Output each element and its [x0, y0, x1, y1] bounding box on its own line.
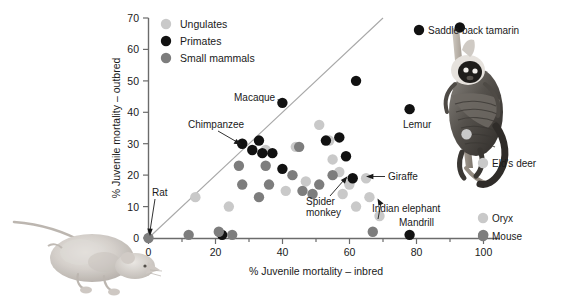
- annotation-spider-monkey-line1: Spider: [306, 196, 336, 207]
- data-point: [143, 233, 153, 243]
- data-point: [351, 76, 361, 86]
- data-point: [327, 154, 337, 164]
- data-point: [337, 189, 347, 199]
- ytick-label-70: 70: [127, 12, 139, 24]
- xtick-label-20: 20: [210, 246, 222, 258]
- xtick-label-0: 0: [146, 246, 152, 258]
- data-point: [341, 151, 351, 161]
- data-point: [264, 179, 274, 189]
- annotation-mouse: Mouse: [492, 231, 522, 242]
- marker-elds-deer: [478, 158, 488, 168]
- xtick-label-80: 80: [411, 246, 423, 258]
- axis-y: 70 60 50 40 30 20 10 0 % Juvenile mortal…: [110, 12, 149, 244]
- ytick-label-0: 0: [133, 232, 139, 244]
- data-point: [327, 170, 337, 180]
- annotation-rat: Rat: [152, 187, 168, 198]
- data-point: [348, 173, 358, 183]
- annotation-oryx: Oryx: [492, 213, 513, 224]
- ytick-label-40: 40: [127, 106, 139, 118]
- xtick-label-40: 40: [277, 246, 289, 258]
- marker-mouse: [478, 231, 488, 241]
- data-point: [234, 161, 244, 171]
- ytick-label-30: 30: [127, 138, 139, 150]
- ytick-label-10: 10: [127, 201, 139, 213]
- data-point: [183, 230, 193, 240]
- data-point: [257, 148, 267, 158]
- annotation-chimpanzee: Chimpanzee: [188, 119, 245, 130]
- plot-canvas: 70 60 50 40 30 20 10 0 % Juvenile mortal…: [0, 0, 564, 298]
- legend-swatch-ungulates: [161, 19, 171, 29]
- data-point: [281, 186, 291, 196]
- data-point: [361, 173, 371, 183]
- y-axis-title: % Juvenile mortality – outbred: [110, 58, 122, 199]
- legend-label-primates: Primates: [180, 35, 221, 47]
- scatter-plot-figure: 70 60 50 40 30 20 10 0 % Juvenile mortal…: [0, 0, 564, 298]
- rat-illustration: [14, 222, 162, 295]
- data-point: [254, 192, 264, 202]
- data-point: [190, 192, 200, 202]
- annotation-giraffe: Giraffe: [388, 171, 418, 182]
- annotation-mandrill: Mandrill: [399, 217, 434, 228]
- annotation-indian-elephant: Indian elephant: [372, 203, 441, 214]
- legend-label-small-mammals: Small mammals: [180, 52, 255, 64]
- data-point: [314, 120, 324, 130]
- legend-label-ungulates: Ungulates: [180, 18, 227, 30]
- data-point: [277, 164, 287, 174]
- marker-oryx: [478, 213, 488, 223]
- data-point: [301, 176, 311, 186]
- annotation-lemur: Lemur: [403, 119, 432, 130]
- annotation-spider-monkey-line2: monkey: [306, 207, 341, 218]
- legend-swatch-small-mammals: [161, 53, 171, 63]
- annotation-saddle-back-tamarin: Saddle back tamarin: [428, 25, 519, 36]
- legend-swatch-primates: [161, 36, 171, 46]
- data-point: [404, 230, 414, 240]
- data-point: [254, 135, 264, 145]
- data-point: [404, 104, 414, 114]
- data-point: [314, 179, 324, 189]
- axis-x: 0 20 40 60 80 100 % Juvenile mortality –…: [146, 239, 500, 278]
- data-point: [267, 148, 277, 158]
- data-point: [321, 135, 331, 145]
- data-point: [461, 129, 471, 139]
- data-point: [351, 201, 361, 211]
- xtick-label-100: 100: [475, 246, 493, 258]
- marker-saddle-back-tamarin: [414, 25, 424, 35]
- data-point: [260, 161, 270, 171]
- ytick-label-20: 20: [127, 169, 139, 181]
- annotation-macaque: Macaque: [234, 92, 276, 103]
- data-point: [294, 142, 304, 152]
- data-point: [247, 145, 257, 155]
- data-point: [237, 179, 247, 189]
- annotation-elds-deer: Eld's deer: [492, 158, 537, 169]
- data-point: [287, 170, 297, 180]
- data-point: [214, 227, 224, 237]
- data-point: [364, 192, 374, 202]
- ytick-label-60: 60: [127, 43, 139, 55]
- xtick-label-60: 60: [344, 246, 356, 258]
- data-point: [368, 227, 378, 237]
- identity-reference-line: [149, 18, 384, 238]
- data-point: [334, 132, 344, 142]
- x-axis-title: % Juvenile mortality – inbred: [249, 265, 383, 277]
- data-point: [227, 230, 237, 240]
- legend: Ungulates Primates Small mammals: [161, 18, 255, 64]
- ytick-label-50: 50: [127, 75, 139, 87]
- data-point: [297, 186, 307, 196]
- data-point: [224, 201, 234, 211]
